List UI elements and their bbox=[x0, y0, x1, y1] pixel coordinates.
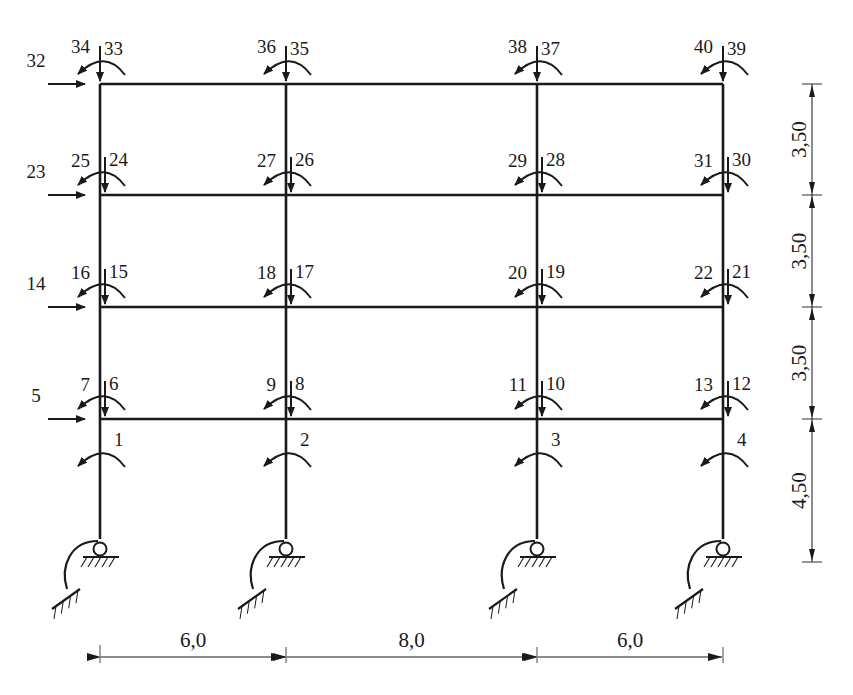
degrees-of-freedom: 1234567891011121314151617181920212223242… bbox=[27, 36, 752, 467]
dof-label: 24 bbox=[109, 149, 129, 170]
dof-label: 12 bbox=[732, 373, 751, 394]
inclined-ground-line bbox=[52, 589, 80, 609]
ground-hatch bbox=[525, 557, 531, 567]
dim-arrowhead bbox=[809, 308, 815, 320]
dof-label: 29 bbox=[508, 150, 527, 171]
dof-label: 11 bbox=[509, 374, 527, 395]
hinge-icon bbox=[280, 543, 293, 556]
hinge-support-1 bbox=[52, 541, 119, 619]
span-label: 8,0 bbox=[398, 628, 424, 652]
ground-hatch bbox=[109, 557, 115, 567]
dof-label: 28 bbox=[546, 149, 565, 170]
ground-hatch bbox=[711, 557, 717, 567]
ground-hatch bbox=[295, 557, 301, 567]
rotation-arrow-icon bbox=[78, 172, 125, 186]
ground-hatch bbox=[718, 557, 724, 567]
dof-label: 5 bbox=[31, 385, 41, 406]
base-dof-4: 4 bbox=[701, 429, 748, 467]
ground-hatch bbox=[281, 557, 287, 567]
dof-label: 21 bbox=[732, 261, 751, 282]
dof-label: 23 bbox=[27, 161, 46, 182]
inclined-ground-line bbox=[489, 589, 517, 609]
rotation-arrow-icon bbox=[515, 61, 562, 75]
dof-label: 30 bbox=[732, 149, 751, 170]
dof-label: 38 bbox=[508, 36, 527, 57]
ground-hatch bbox=[539, 557, 545, 567]
dof-label: 35 bbox=[290, 38, 309, 59]
span-label: 6,0 bbox=[617, 628, 643, 652]
dof-label: 26 bbox=[295, 149, 314, 170]
dof-label: 10 bbox=[546, 373, 565, 394]
dim-arrowhead bbox=[809, 85, 815, 97]
dof-label: 15 bbox=[109, 261, 128, 282]
ground-hatch bbox=[546, 557, 552, 567]
rotation-arrow-icon bbox=[701, 61, 748, 75]
rotation-arrow-icon bbox=[515, 284, 562, 298]
dof-label: 1 bbox=[114, 429, 124, 450]
rotation-arrow-icon bbox=[264, 396, 311, 410]
ground-hatch bbox=[725, 557, 731, 567]
floor-1-dofs: 5678910111213 bbox=[31, 373, 751, 419]
frame-diagram: 1234567891011121314151617181920212223242… bbox=[0, 0, 853, 695]
dof-label: 27 bbox=[257, 150, 276, 171]
dim-arrowhead bbox=[809, 406, 815, 418]
hinge-icon bbox=[94, 543, 107, 556]
rotation-arrow-icon bbox=[515, 396, 562, 410]
dof-label: 17 bbox=[295, 261, 314, 282]
inclined-ground-line bbox=[238, 589, 266, 609]
rotation-arrow-icon bbox=[78, 453, 125, 467]
dof-label: 25 bbox=[71, 150, 90, 171]
dof-label: 3 bbox=[551, 429, 561, 450]
hinge-support-4 bbox=[675, 541, 742, 619]
hinge-support-2 bbox=[238, 541, 305, 619]
rotation-arrow-icon bbox=[264, 172, 311, 186]
dim-arrowhead bbox=[809, 294, 815, 306]
base-dof-1: 1 bbox=[78, 429, 125, 467]
rotation-arrow-icon bbox=[78, 396, 125, 410]
span-label: 6,0 bbox=[180, 628, 206, 652]
ground-hatch bbox=[274, 557, 280, 567]
hinge-icon bbox=[717, 543, 730, 556]
dof-label: 2 bbox=[300, 429, 310, 450]
ground-hatch bbox=[88, 557, 94, 567]
dof-label: 19 bbox=[546, 261, 565, 282]
rotation-arrow-icon bbox=[701, 453, 748, 467]
hinge-icon bbox=[531, 543, 544, 556]
dof-label: 4 bbox=[737, 429, 747, 450]
floor-4-dofs: 323334353637383940 bbox=[27, 36, 749, 84]
dof-label: 33 bbox=[104, 38, 123, 59]
dof-label: 18 bbox=[257, 262, 276, 283]
dof-label: 34 bbox=[71, 36, 91, 57]
rotation-arrow-icon bbox=[515, 172, 562, 186]
dof-label: 22 bbox=[694, 262, 713, 283]
dof-label: 16 bbox=[71, 262, 90, 283]
dof-label: 39 bbox=[727, 38, 746, 59]
rotation-arrow-icon bbox=[78, 61, 125, 75]
ground-hatch bbox=[288, 557, 294, 567]
height-label: 3,50 bbox=[787, 121, 811, 158]
inclined-ground-line bbox=[675, 589, 703, 609]
rotation-arrow-icon bbox=[264, 61, 311, 75]
dof-label: 9 bbox=[267, 374, 277, 395]
ground-hatch bbox=[95, 557, 101, 567]
rotation-arrow-icon bbox=[515, 453, 562, 467]
rotation-arrow-icon bbox=[701, 396, 748, 410]
dim-arrowhead bbox=[809, 182, 815, 194]
height-label: 3,50 bbox=[787, 345, 811, 382]
dof-label: 31 bbox=[694, 150, 713, 171]
rotation-arrow-icon bbox=[264, 453, 311, 467]
rotation-arrow-icon bbox=[78, 284, 125, 298]
dim-arrowhead bbox=[809, 549, 815, 561]
dim-arrowhead bbox=[809, 196, 815, 208]
supports bbox=[52, 541, 742, 619]
ground-hatch bbox=[532, 557, 538, 567]
ground-hatch bbox=[267, 557, 273, 567]
ground-hatch bbox=[518, 557, 524, 567]
dof-label: 40 bbox=[694, 36, 713, 57]
rotation-arrow-icon bbox=[264, 284, 311, 298]
dof-label: 36 bbox=[257, 36, 276, 57]
rotation-arrow-icon bbox=[701, 284, 748, 298]
dof-label: 20 bbox=[508, 262, 527, 283]
height-label: 3,50 bbox=[787, 233, 811, 270]
dim-arrowhead bbox=[809, 420, 815, 432]
